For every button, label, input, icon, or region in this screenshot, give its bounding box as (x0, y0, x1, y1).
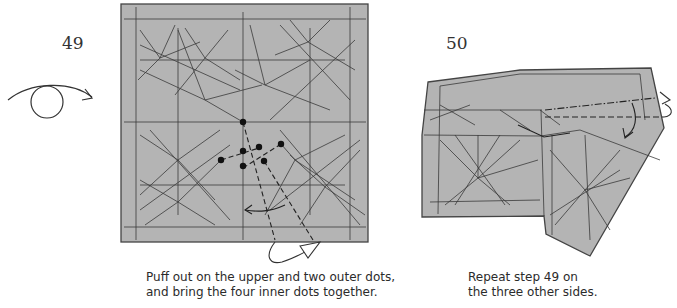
step-49-square (121, 4, 368, 242)
diagrams-canvas (0, 0, 677, 308)
step-50-caption: Repeat step 49 on the three other sides. (468, 270, 598, 300)
turn-over-icon (8, 85, 92, 118)
step-50-caption-line2: the three other sides. (468, 285, 598, 300)
step-50-model (422, 68, 671, 256)
step-49-caption-line2: and bring the four inner dots together. (146, 285, 395, 300)
push-arrow-icon-2 (660, 92, 671, 117)
step-49-caption: Puff out on the upper and two outer dots… (146, 270, 395, 300)
step-49-caption-line1: Puff out on the upper and two outer dots… (146, 270, 395, 285)
push-arrow-icon (269, 242, 320, 263)
step-50-caption-line1: Repeat step 49 on (468, 270, 598, 285)
